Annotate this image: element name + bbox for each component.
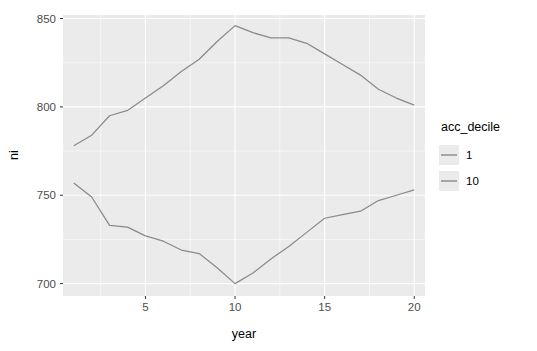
x-tick-label: 5 <box>142 301 148 313</box>
line-chart: 700750800850 5101520 year ni acc_decile … <box>0 0 537 351</box>
y-tick-label: 750 <box>37 189 56 201</box>
x-axis-title: year <box>232 327 256 341</box>
y-tick-label: 700 <box>37 278 56 290</box>
chart-container: 700750800850 5101520 year ni acc_decile … <box>0 0 537 351</box>
y-axis-title: ni <box>7 150 21 160</box>
legend-title: acc_decile <box>441 120 500 134</box>
x-tick-label: 20 <box>408 301 421 313</box>
y-tick-label: 800 <box>37 101 56 113</box>
legend-entry-label-1: 1 <box>466 149 472 161</box>
x-tick-label: 15 <box>318 301 331 313</box>
legend-entry-label-10: 10 <box>466 175 479 187</box>
y-tick-label: 850 <box>37 13 56 25</box>
x-tick-label: 10 <box>229 301 242 313</box>
plot-panel-background <box>63 15 425 296</box>
